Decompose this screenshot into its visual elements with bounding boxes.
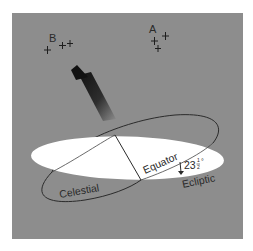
angle-degree-symbol: °: [201, 158, 204, 165]
angle-value: 23: [184, 159, 196, 171]
angle-fraction-denominator: 2: [197, 164, 200, 170]
celestial-sphere-diagram: B A Celestial E: [0, 0, 253, 251]
star-group-b-label: B: [49, 32, 56, 44]
star-group-a-label: A: [149, 23, 157, 35]
background-panel: [12, 13, 243, 239]
angle-fraction-numerator: 1: [197, 157, 200, 163]
